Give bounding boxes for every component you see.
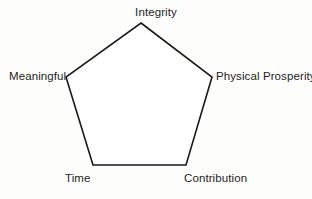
node-label-time: Time — [65, 172, 91, 185]
node-label-contribution: Contribution — [184, 172, 247, 185]
node-label-physical-prosperity: Physical Prosperity — [216, 70, 312, 83]
pentagon-diagram: Integrity Physical Prosperity Contributi… — [0, 0, 312, 199]
node-label-meaningful: Meaningful — [9, 70, 66, 83]
pentagon-shape — [0, 0, 312, 199]
node-label-integrity: Integrity — [0, 6, 312, 19]
pentagon-outline — [66, 23, 212, 165]
